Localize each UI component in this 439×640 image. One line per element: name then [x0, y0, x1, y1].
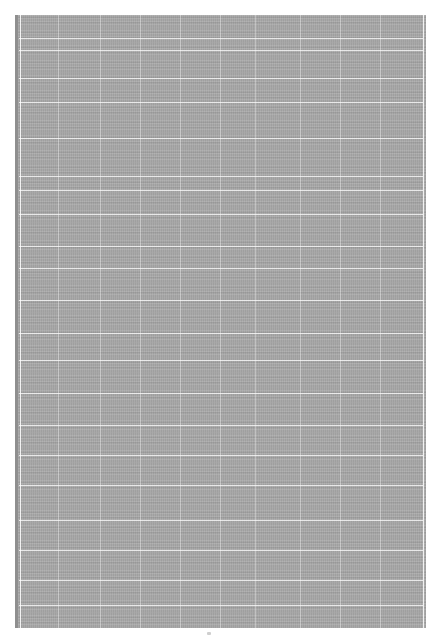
- table-row-divider: [19, 214, 423, 215]
- table-row-divider: [19, 425, 423, 426]
- table-row-divider: [19, 455, 423, 456]
- table-row-divider: [19, 176, 423, 177]
- page-number-mark: [207, 632, 211, 635]
- table-column-divider: [140, 15, 141, 628]
- table-row-divider: [19, 246, 423, 247]
- table-column-divider: [423, 15, 424, 628]
- table-row-divider: [19, 550, 423, 551]
- table-row-divider: [19, 485, 423, 486]
- document-page: [0, 0, 439, 640]
- table-column-divider: [255, 15, 256, 628]
- table-row-divider: [19, 605, 423, 606]
- table-column-divider: [180, 15, 181, 628]
- table-row-divider: [19, 300, 423, 301]
- table-column-divider: [58, 15, 59, 628]
- table-row-divider: [19, 520, 423, 521]
- table-row-divider: [19, 268, 423, 269]
- block-left-border: [15, 15, 18, 628]
- table-row-divider: [19, 393, 423, 394]
- table-row-divider: [19, 50, 423, 51]
- table-row-divider: [19, 78, 423, 79]
- table-row-divider: [19, 102, 423, 103]
- table-row-divider: [19, 38, 423, 39]
- table-row-divider: [19, 138, 423, 139]
- table-column-divider: [100, 15, 101, 628]
- table-row-divider: [19, 360, 423, 361]
- table-row-divider: [19, 580, 423, 581]
- table-column-divider: [220, 15, 221, 628]
- table-column-divider: [380, 15, 381, 628]
- table-row-divider: [19, 190, 423, 191]
- table-column-divider: [300, 15, 301, 628]
- table-column-divider: [20, 15, 21, 628]
- scanned-table-block: [15, 15, 426, 628]
- table-row-divider: [19, 333, 423, 334]
- table-column-divider: [340, 15, 341, 628]
